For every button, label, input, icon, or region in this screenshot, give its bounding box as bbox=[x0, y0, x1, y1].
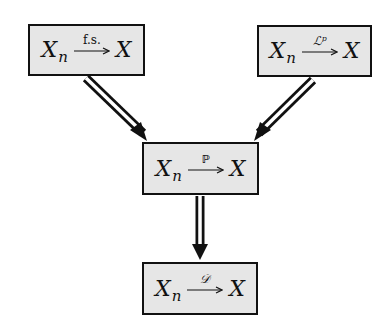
convergence-label: 𝒟 bbox=[200, 273, 210, 285]
convergence-label: ℒᵖ bbox=[313, 35, 327, 47]
right-arrow-icon bbox=[187, 286, 223, 294]
implies-arrow-fs-to-p bbox=[86, 78, 147, 141]
implies-arrow-lp-to-p bbox=[254, 80, 313, 141]
node-convergence-in-distribution: Xn 𝒟 X bbox=[142, 262, 258, 315]
sequence-subscript: n bbox=[58, 50, 68, 65]
convergence-label: ℙ bbox=[202, 154, 210, 165]
right-arrow-icon bbox=[302, 48, 338, 56]
convergence-arrow: ℒᵖ bbox=[302, 35, 338, 56]
sequence-symbol: X bbox=[155, 278, 171, 300]
node-almost-sure-convergence: Xn f.s. X bbox=[28, 24, 145, 76]
implies-arrow-p-to-d bbox=[192, 196, 208, 260]
right-arrow-icon bbox=[188, 166, 224, 174]
sequence-symbol: X bbox=[155, 158, 171, 180]
sequence-symbol: X bbox=[269, 40, 285, 62]
limit-symbol: X bbox=[229, 278, 245, 300]
limit-symbol: X bbox=[116, 39, 132, 61]
convergence-arrow: ℙ bbox=[188, 154, 224, 174]
right-arrow-icon bbox=[74, 47, 110, 55]
convergence-label: f.s. bbox=[83, 34, 101, 46]
sequence-subscript: n bbox=[286, 51, 296, 66]
node-convergence-in-probability: Xn ℙ X bbox=[142, 142, 259, 195]
sequence-subscript: n bbox=[172, 289, 182, 304]
sequence-subscript: n bbox=[172, 169, 182, 184]
limit-symbol: X bbox=[344, 40, 360, 62]
sequence-symbol: X bbox=[41, 39, 57, 61]
node-lp-convergence: Xn ℒᵖ X bbox=[257, 25, 372, 77]
convergence-arrow: f.s. bbox=[74, 34, 110, 55]
convergence-arrow: 𝒟 bbox=[187, 273, 223, 294]
limit-symbol: X bbox=[230, 158, 246, 180]
